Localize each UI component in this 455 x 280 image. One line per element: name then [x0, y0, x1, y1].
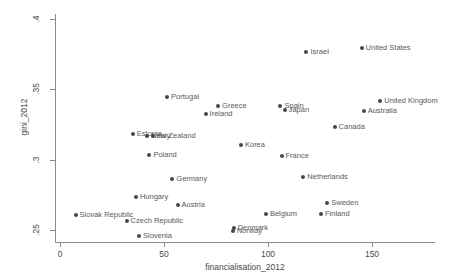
y-tick	[50, 230, 55, 231]
point-label: Australia	[368, 107, 397, 115]
data-point	[362, 109, 366, 113]
point-label: Netherlands	[307, 173, 347, 181]
point-label: United Kingdom	[384, 97, 437, 105]
data-point	[319, 212, 323, 216]
data-point	[204, 112, 208, 116]
x-tick-label: 100	[248, 249, 288, 259]
data-point	[134, 195, 138, 199]
y-tick	[50, 160, 55, 161]
x-tick	[372, 242, 373, 247]
y-tick	[50, 89, 55, 90]
x-tick	[60, 242, 61, 247]
x-tick	[164, 242, 165, 247]
data-point	[147, 153, 151, 157]
point-label: France	[286, 152, 309, 160]
point-label: Germany	[176, 175, 207, 183]
point-label: Belgium	[270, 210, 297, 218]
point-label: Ireland	[210, 110, 233, 118]
data-point	[165, 95, 169, 99]
point-label: Finland	[325, 210, 350, 218]
point-label: Japan	[289, 106, 309, 114]
point-label: Canada	[339, 123, 365, 131]
x-tick	[268, 242, 269, 247]
y-tick-label: .4	[31, 7, 41, 31]
data-point	[125, 219, 129, 223]
data-point	[74, 213, 78, 217]
y-tick	[50, 19, 55, 20]
scatter-chart: gini_2012 financialisation_2012 .25.3.35…	[0, 0, 455, 280]
y-axis-title: gini_2012	[19, 77, 29, 157]
data-point	[283, 108, 287, 112]
y-tick-label: .3	[31, 148, 41, 172]
point-label: Israel	[310, 48, 328, 56]
point-label: Hungary	[140, 193, 168, 201]
x-axis-line	[55, 242, 435, 243]
data-point	[325, 201, 329, 205]
data-point	[131, 132, 135, 136]
point-label: Sweden	[331, 199, 358, 207]
point-label: Poland	[153, 151, 176, 159]
data-point	[151, 134, 155, 138]
y-axis-line	[55, 14, 56, 242]
point-label: Portugal	[171, 93, 199, 101]
point-label: Austria	[182, 201, 205, 209]
point-label: United States	[366, 44, 411, 52]
data-point	[301, 175, 305, 179]
point-label: Slovak Republic	[80, 211, 134, 219]
data-point	[239, 143, 243, 147]
data-point	[145, 134, 149, 138]
point-label: Norway	[237, 227, 262, 235]
plot-area: gini_2012 financialisation_2012 .25.3.35…	[0, 0, 455, 280]
y-tick-label: .25	[31, 218, 41, 242]
data-point	[264, 212, 268, 216]
y-tick-label: .35	[31, 77, 41, 101]
data-point	[170, 177, 174, 181]
data-point	[378, 99, 382, 103]
data-point	[333, 125, 337, 129]
data-point	[360, 46, 364, 50]
data-point	[280, 154, 284, 158]
data-point	[304, 50, 308, 54]
x-axis-title: financialisation_2012	[55, 262, 435, 272]
point-label: Italy	[157, 132, 171, 140]
point-label: Korea	[245, 141, 265, 149]
data-point	[137, 234, 141, 238]
data-point	[176, 203, 180, 207]
x-tick-label: 0	[40, 249, 80, 259]
data-point	[216, 104, 220, 108]
x-tick-label: 150	[352, 249, 392, 259]
point-label: Slovenia	[143, 232, 172, 240]
x-tick-label: 50	[144, 249, 184, 259]
point-label: Czech Republic	[131, 217, 184, 225]
data-point	[231, 229, 235, 233]
data-point	[278, 104, 282, 108]
